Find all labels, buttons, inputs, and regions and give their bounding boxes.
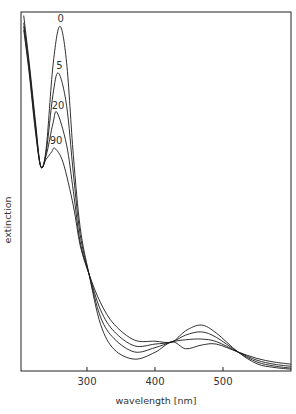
x-tick-label: 500 [213, 376, 232, 387]
y-axis-title: extinction [2, 196, 13, 243]
curve-0 [24, 16, 291, 365]
x-axis-title: wavelength [nm] [115, 395, 196, 406]
series-label-90: 90 [50, 135, 63, 146]
x-tick-label: 400 [145, 376, 164, 387]
spectrum-curves [24, 16, 291, 370]
series-label-5: 5 [56, 60, 62, 71]
x-axis-ticks: 300400500 [77, 367, 232, 387]
x-tick-label: 300 [77, 376, 96, 387]
curve-5 [24, 23, 291, 367]
spectrum-chart: 300400500 052090 wavelength [nm] extinct… [0, 0, 296, 414]
series-label-20: 20 [52, 100, 65, 111]
series-label-0: 0 [58, 13, 64, 24]
curve-90 [24, 30, 291, 369]
curve-20 [24, 26, 291, 368]
